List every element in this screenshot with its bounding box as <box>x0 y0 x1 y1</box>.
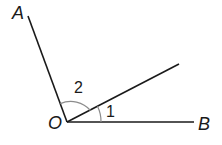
angle-diagram: A O B 2 1 <box>0 0 222 145</box>
ray-oa <box>28 16 67 122</box>
diagram-lines <box>0 0 222 145</box>
label-a: A <box>12 4 24 22</box>
arc-angle-1 <box>98 106 102 122</box>
ray-middle <box>67 64 179 122</box>
label-o: O <box>48 114 62 132</box>
label-angle-1: 1 <box>106 104 115 120</box>
label-angle-2: 2 <box>74 80 83 96</box>
arc-angle-2 <box>60 101 90 110</box>
label-b: B <box>198 115 210 133</box>
